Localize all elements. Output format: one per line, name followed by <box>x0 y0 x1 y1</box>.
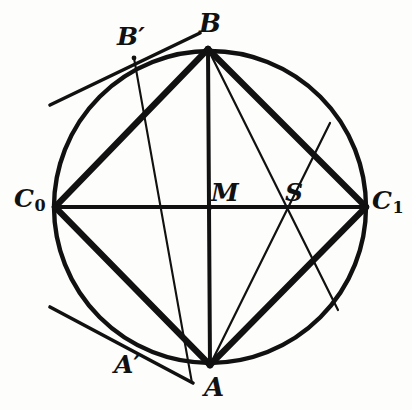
point-label-c1-base: C <box>372 186 392 215</box>
point-label-c0-subscript: 0 <box>34 196 45 215</box>
point-label-c1: C1 <box>372 188 404 216</box>
point-label-c0: C0 <box>14 186 46 214</box>
point-label-b: B <box>199 10 221 36</box>
point-label-a-prime: A′ <box>114 352 140 377</box>
vertex-dot-b <box>205 46 211 52</box>
point-label-c0-base: C <box>14 184 34 213</box>
vertex-dot-c0 <box>52 204 58 210</box>
geometry-figure <box>0 0 412 410</box>
vertex-dot-c1 <box>363 204 369 210</box>
point-label-b-prime: B′ <box>117 24 145 49</box>
point-label-m: M <box>211 180 239 205</box>
vertex-dot-a <box>207 362 214 369</box>
point-label-c1-subscript: 1 <box>392 198 403 217</box>
vertex-dot-b-prime <box>132 56 137 61</box>
point-label-s: S <box>285 180 303 205</box>
point-label-a: A <box>204 374 224 400</box>
